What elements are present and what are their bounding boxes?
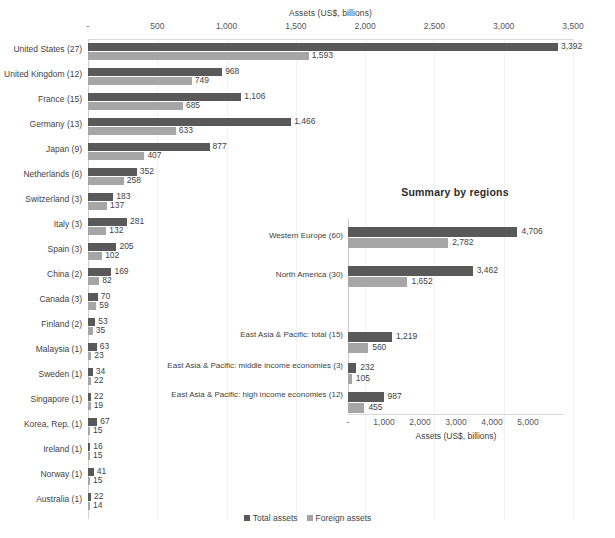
bar-value-total: 877 bbox=[213, 141, 227, 151]
bar-value-foreign: 560 bbox=[372, 342, 386, 352]
right-x-tick: - bbox=[347, 417, 350, 427]
bar-foreign-assets bbox=[88, 252, 102, 260]
bar-value-foreign: 2,782 bbox=[452, 237, 473, 247]
bar-total-assets bbox=[348, 332, 392, 342]
bar-value-foreign: 455 bbox=[368, 402, 382, 412]
country-row: Norway (1)4115 bbox=[0, 464, 615, 489]
right-x-tick: 1,000 bbox=[373, 417, 394, 427]
left-x-tick: 2,500 bbox=[424, 21, 445, 31]
country-label: France (15) bbox=[0, 94, 82, 104]
bar-foreign-assets bbox=[88, 327, 93, 335]
bar-foreign-assets bbox=[88, 377, 91, 385]
legend-item[interactable]: Total assets bbox=[244, 513, 298, 523]
country-row: United Kingdom (12)968749 bbox=[0, 64, 615, 89]
left-x-tick: 1,000 bbox=[216, 21, 237, 31]
bar-value-foreign: 749 bbox=[195, 75, 209, 85]
left-x-tick: 500 bbox=[150, 21, 164, 31]
bar-value-foreign: 633 bbox=[179, 125, 193, 135]
bar-value-total: 232 bbox=[360, 362, 374, 372]
right-x-tick: 4,000 bbox=[481, 417, 502, 427]
right-x-tick: 3,000 bbox=[445, 417, 466, 427]
country-label: United States (27) bbox=[0, 44, 82, 54]
bar-foreign-assets bbox=[88, 227, 106, 235]
right-x-tick: 2,000 bbox=[409, 417, 430, 427]
country-label: Germany (13) bbox=[0, 119, 82, 129]
bar-foreign-assets bbox=[88, 352, 91, 360]
bar-value-foreign: 82 bbox=[102, 275, 111, 285]
bar-total-assets bbox=[348, 363, 356, 373]
bar-foreign-assets bbox=[88, 52, 309, 60]
bar-foreign-assets bbox=[348, 238, 448, 248]
left-x-tick: 1,500 bbox=[285, 21, 306, 31]
country-label: Korea, Rep. (1) bbox=[0, 419, 82, 429]
bar-value-foreign: 258 bbox=[127, 175, 141, 185]
country-label: Italy (3) bbox=[0, 219, 82, 229]
country-label: Netherlands (6) bbox=[0, 169, 82, 179]
country-label: Norway (1) bbox=[0, 469, 82, 479]
region-label: East Asia & Pacific: middle income econo… bbox=[113, 361, 343, 371]
country-label: Japan (9) bbox=[0, 144, 82, 154]
country-label: United Kingdom (12) bbox=[0, 69, 82, 79]
country-label: Australia (1) bbox=[0, 494, 82, 504]
region-label: East Asia & Pacific: high income economi… bbox=[113, 390, 343, 400]
left-x-tick: 3,000 bbox=[493, 21, 514, 31]
bar-foreign-assets bbox=[88, 102, 183, 110]
bar-foreign-assets bbox=[88, 502, 90, 510]
country-label: China (2) bbox=[0, 269, 82, 279]
legend-swatch-icon bbox=[307, 515, 313, 521]
legend-label: Foreign assets bbox=[316, 513, 372, 523]
bar-value-foreign: 22 bbox=[94, 375, 103, 385]
bar-foreign-assets bbox=[348, 374, 352, 384]
right-chart-axis-title: Assets (US$, billions) bbox=[330, 431, 582, 441]
bar-total-assets bbox=[348, 266, 473, 276]
legend-item[interactable]: Foreign assets bbox=[307, 513, 372, 523]
country-label: Ireland (1) bbox=[0, 444, 82, 454]
right-chart-title: Summary by regions bbox=[330, 186, 580, 198]
bar-total-assets bbox=[88, 368, 93, 376]
bar-foreign-assets bbox=[88, 477, 90, 485]
bar-foreign-assets bbox=[88, 427, 90, 435]
bar-foreign-assets bbox=[88, 77, 192, 85]
bar-value-total: 352 bbox=[140, 166, 154, 176]
bar-value-foreign: 105 bbox=[356, 373, 370, 383]
region-label: North America (30) bbox=[113, 270, 343, 280]
bar-value-total: 4,706 bbox=[521, 226, 542, 236]
country-label: Canada (3) bbox=[0, 294, 82, 304]
right-chart-axis-line bbox=[348, 414, 564, 415]
bar-value-foreign: 19 bbox=[94, 400, 103, 410]
bar-foreign-assets bbox=[348, 277, 407, 287]
country-label: Singapore (1) bbox=[0, 394, 82, 404]
bar-foreign-assets bbox=[88, 277, 99, 285]
bar-foreign-assets bbox=[348, 343, 368, 353]
bar-value-total: 968 bbox=[225, 66, 239, 76]
right-x-tick: 5,000 bbox=[517, 417, 538, 427]
bar-value-foreign: 137 bbox=[110, 200, 124, 210]
bar-value-foreign: 685 bbox=[186, 100, 200, 110]
country-label: Switzerland (3) bbox=[0, 194, 82, 204]
bar-value-foreign: 407 bbox=[147, 150, 161, 160]
bar-value-foreign: 59 bbox=[99, 300, 108, 310]
country-label: Sweden (1) bbox=[0, 369, 82, 379]
region-label: Western Europe (60) bbox=[113, 231, 343, 241]
bar-value-foreign: 1,652 bbox=[411, 276, 432, 286]
left-x-tick: - bbox=[87, 21, 90, 31]
bar-total-assets bbox=[88, 393, 91, 401]
bar-foreign-assets bbox=[88, 152, 144, 160]
country-row: Germany (13)1,466633 bbox=[0, 114, 615, 139]
bar-value-total: 3,392 bbox=[561, 41, 582, 51]
bar-value-foreign: 1,593 bbox=[312, 50, 333, 60]
bar-value-foreign: 15 bbox=[93, 450, 102, 460]
right-chart-plot: Western Europe (60)4,7062,782North Ameri… bbox=[330, 219, 615, 409]
country-row: United States (27)3,3921,593 bbox=[0, 39, 615, 64]
bar-total-assets bbox=[88, 443, 90, 451]
bar-value-total: 3,462 bbox=[477, 265, 498, 275]
chart-by-region: Summary by regions Western Europe (60)4,… bbox=[330, 186, 615, 451]
bar-foreign-assets bbox=[348, 403, 364, 413]
bar-value-total: 987 bbox=[388, 391, 402, 401]
left-chart-axis-title: Assets (US$, billions) bbox=[88, 8, 573, 18]
bar-foreign-assets bbox=[88, 177, 124, 185]
bar-total-assets bbox=[348, 392, 384, 402]
chart-canvas: Assets (US$, billions) -5001,0001,5002,0… bbox=[0, 0, 615, 538]
bar-total-assets bbox=[88, 493, 91, 501]
bar-value-total: 205 bbox=[119, 241, 133, 251]
